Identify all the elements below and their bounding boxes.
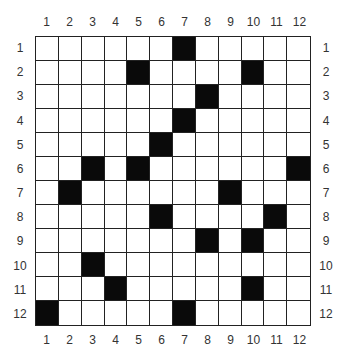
white-cell[interactable] — [105, 133, 128, 157]
white-cell[interactable] — [264, 157, 287, 181]
white-cell[interactable] — [287, 205, 310, 229]
white-cell[interactable] — [127, 229, 150, 253]
white-cell[interactable] — [82, 61, 105, 85]
black-cell[interactable] — [219, 181, 242, 205]
white-cell[interactable] — [36, 85, 59, 109]
white-cell[interactable] — [264, 61, 287, 85]
white-cell[interactable] — [196, 157, 219, 181]
white-cell[interactable] — [173, 61, 196, 85]
white-cell[interactable] — [287, 85, 310, 109]
white-cell[interactable] — [82, 205, 105, 229]
black-cell[interactable] — [173, 37, 196, 61]
white-cell[interactable] — [150, 229, 173, 253]
white-cell[interactable] — [127, 85, 150, 109]
white-cell[interactable] — [150, 61, 173, 85]
white-cell[interactable] — [36, 229, 59, 253]
white-cell[interactable] — [219, 61, 242, 85]
white-cell[interactable] — [36, 277, 59, 301]
white-cell[interactable] — [196, 277, 219, 301]
white-cell[interactable] — [59, 229, 82, 253]
black-cell[interactable] — [242, 229, 265, 253]
white-cell[interactable] — [105, 229, 128, 253]
white-cell[interactable] — [173, 85, 196, 109]
black-cell[interactable] — [82, 157, 105, 181]
white-cell[interactable] — [219, 253, 242, 277]
white-cell[interactable] — [82, 109, 105, 133]
white-cell[interactable] — [82, 133, 105, 157]
black-cell[interactable] — [105, 277, 128, 301]
black-cell[interactable] — [59, 181, 82, 205]
white-cell[interactable] — [219, 133, 242, 157]
black-cell[interactable] — [173, 301, 196, 325]
white-cell[interactable] — [242, 85, 265, 109]
white-cell[interactable] — [59, 109, 82, 133]
white-cell[interactable] — [105, 109, 128, 133]
white-cell[interactable] — [264, 37, 287, 61]
white-cell[interactable] — [59, 85, 82, 109]
white-cell[interactable] — [242, 157, 265, 181]
white-cell[interactable] — [287, 301, 310, 325]
white-cell[interactable] — [82, 277, 105, 301]
white-cell[interactable] — [196, 301, 219, 325]
white-cell[interactable] — [196, 61, 219, 85]
white-cell[interactable] — [105, 61, 128, 85]
white-cell[interactable] — [242, 109, 265, 133]
white-cell[interactable] — [82, 37, 105, 61]
black-cell[interactable] — [264, 205, 287, 229]
white-cell[interactable] — [242, 181, 265, 205]
white-cell[interactable] — [105, 85, 128, 109]
black-cell[interactable] — [242, 61, 265, 85]
black-cell[interactable] — [36, 301, 59, 325]
white-cell[interactable] — [196, 109, 219, 133]
white-cell[interactable] — [105, 157, 128, 181]
white-cell[interactable] — [36, 253, 59, 277]
white-cell[interactable] — [82, 85, 105, 109]
white-cell[interactable] — [219, 85, 242, 109]
white-cell[interactable] — [196, 205, 219, 229]
white-cell[interactable] — [150, 277, 173, 301]
white-cell[interactable] — [219, 37, 242, 61]
white-cell[interactable] — [127, 253, 150, 277]
white-cell[interactable] — [36, 37, 59, 61]
white-cell[interactable] — [173, 157, 196, 181]
white-cell[interactable] — [150, 301, 173, 325]
black-cell[interactable] — [242, 277, 265, 301]
white-cell[interactable] — [36, 181, 59, 205]
white-cell[interactable] — [127, 37, 150, 61]
white-cell[interactable] — [219, 109, 242, 133]
white-cell[interactable] — [264, 277, 287, 301]
white-cell[interactable] — [287, 181, 310, 205]
black-cell[interactable] — [287, 157, 310, 181]
white-cell[interactable] — [264, 301, 287, 325]
white-cell[interactable] — [105, 205, 128, 229]
white-cell[interactable] — [127, 109, 150, 133]
white-cell[interactable] — [105, 253, 128, 277]
white-cell[interactable] — [150, 157, 173, 181]
white-cell[interactable] — [127, 181, 150, 205]
white-cell[interactable] — [82, 181, 105, 205]
white-cell[interactable] — [59, 253, 82, 277]
white-cell[interactable] — [127, 205, 150, 229]
white-cell[interactable] — [150, 181, 173, 205]
black-cell[interactable] — [150, 205, 173, 229]
white-cell[interactable] — [264, 229, 287, 253]
white-cell[interactable] — [242, 133, 265, 157]
white-cell[interactable] — [105, 301, 128, 325]
white-cell[interactable] — [105, 181, 128, 205]
white-cell[interactable] — [36, 157, 59, 181]
black-cell[interactable] — [82, 253, 105, 277]
white-cell[interactable] — [82, 301, 105, 325]
white-cell[interactable] — [173, 229, 196, 253]
white-cell[interactable] — [36, 109, 59, 133]
white-cell[interactable] — [264, 181, 287, 205]
white-cell[interactable] — [219, 277, 242, 301]
white-cell[interactable] — [59, 37, 82, 61]
white-cell[interactable] — [196, 37, 219, 61]
white-cell[interactable] — [219, 205, 242, 229]
white-cell[interactable] — [36, 205, 59, 229]
black-cell[interactable] — [127, 157, 150, 181]
white-cell[interactable] — [36, 133, 59, 157]
white-cell[interactable] — [150, 253, 173, 277]
white-cell[interactable] — [287, 229, 310, 253]
white-cell[interactable] — [196, 133, 219, 157]
